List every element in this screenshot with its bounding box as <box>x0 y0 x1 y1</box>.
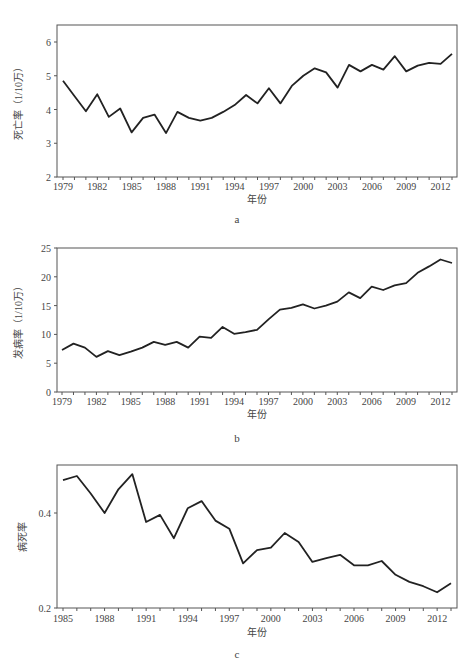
y-tick-label: 2 <box>46 172 51 183</box>
x-tick-label: 2000 <box>261 613 281 624</box>
x-axis-title: 年份 <box>247 408 267 420</box>
y-tick-label: 10 <box>41 329 51 340</box>
chart-a-group: 2345619791982198519881991199419972000200… <box>12 25 457 205</box>
x-tick-label: 2003 <box>327 396 347 407</box>
plot-frame <box>57 25 457 177</box>
x-tick-label: 2000 <box>293 396 313 407</box>
x-tick-label: 2003 <box>328 181 348 192</box>
y-tick-label: 25 <box>41 243 51 254</box>
x-tick-label: 2012 <box>431 396 451 407</box>
x-tick-label: 1994 <box>225 181 245 192</box>
x-tick-label: 2000 <box>293 181 313 192</box>
x-tick-label: 1994 <box>224 396 244 407</box>
y-tick-label: 4 <box>46 105 51 116</box>
caption-c: c <box>0 648 474 660</box>
x-tick-label: 1991 <box>190 181 210 192</box>
x-tick-label: 1991 <box>190 396 210 407</box>
x-tick-label: 2006 <box>362 396 382 407</box>
x-tick-label: 1979 <box>53 181 73 192</box>
chart-c-svg: 0.20.41985198819911994199720002003200620… <box>0 455 474 655</box>
y-tick-label: 20 <box>41 272 51 283</box>
x-tick-label: 1985 <box>121 396 141 407</box>
x-axis-title: 年份 <box>247 193 267 205</box>
y-tick-label: 5 <box>46 71 51 82</box>
series-line <box>62 260 452 357</box>
y-tick-label: 0.2 <box>39 603 52 614</box>
chart-b-group: 0510152025197919821985198819911994199720… <box>12 243 457 420</box>
chart-panel-a: 2345619791982198519881991199419972000200… <box>0 0 474 222</box>
x-tick-label: 2003 <box>302 613 322 624</box>
x-tick-label: 1979 <box>52 396 72 407</box>
x-tick-label: 1994 <box>178 613 198 624</box>
x-tick-label: 1988 <box>95 613 115 624</box>
series-line <box>63 474 451 592</box>
x-tick-label: 1991 <box>136 613 156 624</box>
chart-c-group: 0.20.41985198819911994199720002003200620… <box>16 465 457 638</box>
y-tick-label: 0.4 <box>39 508 52 519</box>
y-tick-label: 3 <box>46 138 51 149</box>
x-tick-label: 1985 <box>53 613 73 624</box>
x-tick-label: 1982 <box>87 181 107 192</box>
caption-b: b <box>0 432 474 444</box>
plot-frame <box>57 465 457 608</box>
x-tick-label: 2006 <box>362 181 382 192</box>
x-tick-label: 2012 <box>431 181 451 192</box>
x-tick-label: 1988 <box>156 181 176 192</box>
x-tick-label: 1988 <box>155 396 175 407</box>
y-tick-label: 0 <box>46 387 51 398</box>
x-tick-label: 2009 <box>386 613 406 624</box>
x-tick-label: 2009 <box>396 181 416 192</box>
y-tick-label: 5 <box>46 358 51 369</box>
y-tick-label: 15 <box>41 301 51 312</box>
y-tick-label: 6 <box>46 37 51 48</box>
x-tick-label: 1997 <box>258 396 278 407</box>
chart-a-svg: 2345619791982198519881991199419972000200… <box>0 0 474 222</box>
x-tick-label: 1985 <box>122 181 142 192</box>
y-axis-title: 病死率 <box>16 522 28 552</box>
x-tick-label: 1997 <box>219 613 239 624</box>
plot-frame <box>57 248 457 392</box>
y-axis-title: 发病率（1/10万） <box>12 281 24 359</box>
x-tick-label: 2006 <box>344 613 364 624</box>
x-tick-label: 2012 <box>427 613 447 624</box>
x-tick-label: 1997 <box>259 181 279 192</box>
chart-panel-b: 0510152025197919821985198819911994199720… <box>0 230 474 430</box>
caption-a: a <box>0 213 474 225</box>
x-tick-label: 2009 <box>396 396 416 407</box>
chart-b-svg: 0510152025197919821985198819911994199720… <box>0 230 474 430</box>
series-line <box>63 54 452 133</box>
x-axis-title: 年份 <box>247 626 267 638</box>
y-axis-title: 死亡率（1/10万） <box>12 62 24 140</box>
chart-panel-c: 0.20.41985198819911994199720002003200620… <box>0 455 474 655</box>
x-tick-label: 1982 <box>86 396 106 407</box>
